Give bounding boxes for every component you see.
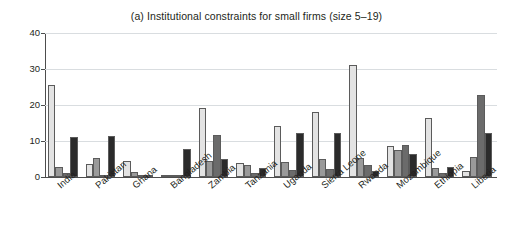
bar-pakistan-series-2 bbox=[93, 158, 100, 177]
bar-ghana-series-2 bbox=[131, 172, 138, 177]
plot-area bbox=[45, 33, 497, 177]
bar-bangladesh-series-4 bbox=[183, 149, 190, 177]
chart-title: (a) Institutional constraints for small … bbox=[0, 10, 513, 22]
bar-ghana-series-3 bbox=[138, 175, 145, 177]
y-tick-mark-0 bbox=[41, 177, 45, 178]
bar-group-bangladesh bbox=[158, 33, 196, 177]
bar-sierra-leone-series-1 bbox=[312, 112, 319, 177]
bar-ethiopia-series-3 bbox=[439, 173, 446, 177]
bar-group-uganda bbox=[271, 33, 309, 177]
y-tick-label-20: 20 bbox=[20, 99, 40, 110]
bar-group-pakistan bbox=[83, 33, 121, 177]
y-tick-label-0: 0 bbox=[20, 171, 40, 182]
y-tick-mark-20 bbox=[41, 105, 45, 106]
bar-uganda-series-3 bbox=[289, 170, 296, 177]
bar-liberia-series-4 bbox=[485, 133, 492, 177]
bar-bangladesh-series-2 bbox=[168, 175, 175, 177]
bar-tanzania-series-3 bbox=[251, 173, 258, 177]
bar-uganda-series-1 bbox=[274, 126, 281, 177]
bar-zambia-series-1 bbox=[199, 108, 206, 177]
bar-group-ghana bbox=[120, 33, 158, 177]
bar-liberia-series-1 bbox=[462, 171, 469, 177]
bar-bangladesh-series-3 bbox=[176, 175, 183, 177]
bar-group-sierra-leone bbox=[309, 33, 347, 177]
bar-group-rwanda bbox=[346, 33, 384, 177]
bar-mozambique-series-4 bbox=[409, 154, 416, 177]
y-tick-mark-10 bbox=[41, 141, 45, 142]
bar-group-liberia bbox=[459, 33, 497, 177]
bar-ethiopia-series-1 bbox=[425, 118, 432, 177]
bar-rwanda-series-2 bbox=[357, 158, 364, 177]
bar-pakistan-series-4 bbox=[108, 136, 115, 177]
y-tick-mark-40 bbox=[41, 33, 45, 34]
bar-mozambique-series-1 bbox=[387, 146, 394, 177]
bar-rwanda-series-3 bbox=[364, 165, 371, 177]
bar-ghana-series-4 bbox=[146, 175, 153, 177]
bar-rwanda-series-4 bbox=[372, 171, 379, 177]
bar-uganda-series-2 bbox=[281, 162, 288, 177]
bar-india-series-4 bbox=[70, 137, 77, 177]
bar-ethiopia-series-4 bbox=[447, 167, 454, 177]
bar-sierra-leone-series-3 bbox=[326, 169, 333, 177]
bar-sierra-leone-series-2 bbox=[319, 159, 326, 177]
bar-bangladesh-series-1 bbox=[161, 175, 168, 177]
bar-india-series-1 bbox=[48, 85, 55, 177]
bar-pakistan-series-1 bbox=[86, 164, 93, 177]
bar-sierra-leone-series-4 bbox=[334, 133, 341, 177]
bar-tanzania-series-2 bbox=[244, 165, 251, 177]
bar-group-tanzania bbox=[233, 33, 271, 177]
bar-liberia-series-2 bbox=[470, 157, 477, 177]
gridline-0 bbox=[45, 177, 497, 178]
bar-zambia-series-4 bbox=[221, 159, 228, 177]
bar-tanzania-series-4 bbox=[259, 168, 266, 177]
bar-zambia-series-3 bbox=[213, 135, 220, 177]
y-tick-mark-30 bbox=[41, 69, 45, 70]
bar-liberia-series-3 bbox=[477, 95, 484, 177]
bar-india-series-2 bbox=[55, 167, 62, 177]
bar-mozambique-series-3 bbox=[402, 145, 409, 177]
bar-pakistan-series-3 bbox=[100, 175, 107, 177]
chart-figure: (a) Institutional constraints for small … bbox=[0, 0, 513, 245]
bar-uganda-series-4 bbox=[296, 133, 303, 177]
bar-ethiopia-series-2 bbox=[432, 168, 439, 177]
bar-india-series-3 bbox=[63, 173, 70, 177]
bar-mozambique-series-2 bbox=[394, 150, 401, 177]
bar-tanzania-series-1 bbox=[236, 163, 243, 177]
bar-zambia-series-2 bbox=[206, 161, 213, 177]
bar-ghana-series-1 bbox=[123, 161, 130, 177]
bar-group-ethiopia bbox=[422, 33, 460, 177]
y-tick-label-30: 30 bbox=[20, 63, 40, 74]
y-tick-label-10: 10 bbox=[20, 135, 40, 146]
bar-group-zambia bbox=[196, 33, 234, 177]
bar-group-mozambique bbox=[384, 33, 422, 177]
bar-rwanda-series-1 bbox=[349, 65, 356, 177]
y-tick-label-40: 40 bbox=[20, 27, 40, 38]
bar-group-india bbox=[45, 33, 83, 177]
